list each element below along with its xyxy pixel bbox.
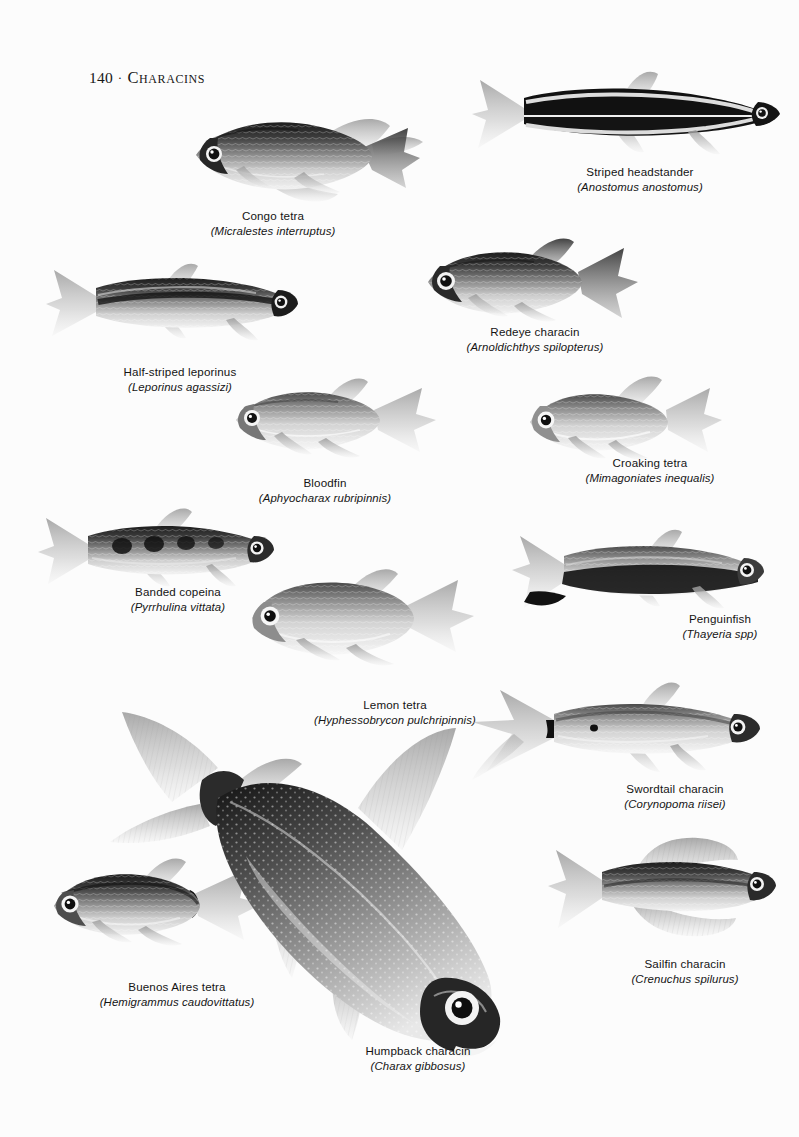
scientific-name: (Corynopoma riisei) bbox=[560, 797, 790, 812]
common-name: Swordtail characin bbox=[560, 782, 790, 797]
common-name: Striped headstander bbox=[520, 165, 760, 180]
scientific-name: (Thayeria spp) bbox=[650, 627, 790, 642]
caption-swordtail-characin: Swordtail characin (Corynopoma riisei) bbox=[560, 782, 790, 811]
half-striped-leporinus-illustration bbox=[46, 264, 298, 341]
striped-headstander-illustration bbox=[472, 72, 780, 154]
common-name: Redeye characin bbox=[415, 325, 655, 340]
scientific-name: (Arnoldichthys spilopterus) bbox=[415, 340, 655, 355]
scientific-name: (Charax gibbosus) bbox=[303, 1059, 533, 1074]
caption-striped-headstander: Striped headstander (Anostomus anostomus… bbox=[520, 165, 760, 194]
congo-tetra-illustration bbox=[196, 119, 423, 201]
scientific-name: (Anostomus anostomus) bbox=[520, 180, 760, 195]
redeye-characin-illustration bbox=[428, 239, 638, 322]
croaking-tetra-illustration bbox=[530, 377, 722, 460]
caption-sailfin-characin: Sailfin characin (Crenuchus spilurus) bbox=[580, 957, 790, 986]
figure-striped-headstander bbox=[462, 62, 782, 162]
penguinfish-illustration bbox=[512, 530, 764, 609]
humpback-characin-illustration bbox=[110, 712, 500, 1056]
figure-half-striped-leporinus bbox=[40, 252, 300, 352]
common-name: Sailfin characin bbox=[580, 957, 790, 972]
book-page: 140·Characins bbox=[0, 0, 799, 1137]
figure-bloodfin bbox=[214, 368, 454, 468]
section-title: Characins bbox=[127, 68, 205, 87]
page-number: 140 bbox=[89, 69, 113, 86]
scientific-name: (Crenuchus spilurus) bbox=[580, 972, 790, 987]
common-name: Croaking tetra bbox=[530, 456, 770, 471]
caption-penguinfish: Penguinfish (Thayeria spp) bbox=[650, 612, 790, 641]
common-name: Penguinfish bbox=[650, 612, 790, 627]
figure-humpback-characin bbox=[90, 660, 590, 1060]
running-head-separator: · bbox=[113, 70, 128, 85]
running-head: 140·Characins bbox=[89, 68, 205, 88]
figure-congo-tetra bbox=[176, 100, 426, 215]
figure-redeye-characin bbox=[410, 232, 650, 332]
lemon-tetra-illustration bbox=[252, 569, 474, 665]
scientific-name: (Mimagoniates inequalis) bbox=[530, 471, 770, 486]
common-name: Humpback characin bbox=[303, 1044, 533, 1059]
scientific-name: (Micralestes interruptus) bbox=[143, 224, 403, 239]
figure-croaking-tetra bbox=[510, 370, 730, 470]
figure-penguinfish bbox=[500, 520, 770, 620]
caption-croaking-tetra: Croaking tetra (Mimagoniates inequalis) bbox=[530, 456, 770, 485]
bloodfin-illustration bbox=[236, 379, 436, 458]
caption-redeye-characin: Redeye characin (Arnoldichthys spilopter… bbox=[415, 325, 655, 354]
common-name: Bloodfin bbox=[205, 476, 445, 491]
caption-congo-tetra: Congo tetra (Micralestes interruptus) bbox=[143, 209, 403, 238]
caption-humpback-characin: Humpback characin (Charax gibbosus) bbox=[303, 1044, 533, 1073]
common-name: Congo tetra bbox=[143, 209, 403, 224]
